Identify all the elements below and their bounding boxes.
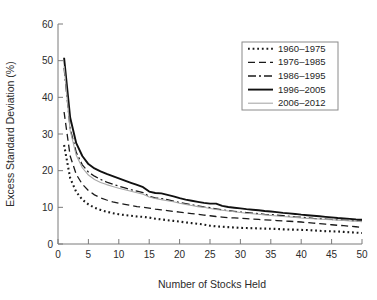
y-tick-label: 50 [42,55,54,66]
x-tick-label: 0 [55,249,61,260]
legend-label-3: 1986–1995 [278,70,326,81]
y-tick-label: 30 [42,129,54,140]
y-tick-label: 0 [47,239,53,250]
series-line-1 [64,145,362,233]
y-tick-label: 10 [42,202,54,213]
chart-legend: 1960–19751976–19851986–19951996–20052006… [242,42,338,110]
x-tick-label: 20 [174,249,186,260]
x-tick-label: 50 [356,249,368,260]
x-tick-label: 45 [326,249,338,260]
legend-label-4: 1996–2005 [278,84,326,95]
excess-standard-deviation-line-chart: 010203040506005101520253035404550 1960–1… [0,0,377,300]
x-tick-label: 35 [265,249,277,260]
legend-label-1: 1960–1975 [278,43,326,54]
x-tick-label: 25 [204,249,216,260]
legend-label-5: 2006–2012 [278,97,326,108]
x-tick-label: 40 [296,249,308,260]
x-tick-label: 10 [113,249,125,260]
y-tick-label: 20 [42,165,54,176]
x-tick-label: 30 [235,249,247,260]
y-axis-title: Excess Standard Deviation (%) [4,61,16,206]
series-line-2 [64,112,362,227]
figure-container: 010203040506005101520253035404550 1960–1… [0,0,377,300]
x-axis-title: Number of Stocks Held [158,278,266,290]
y-tick-label: 40 [42,92,54,103]
x-tick-label: 15 [144,249,156,260]
y-tick-label: 60 [42,19,54,30]
legend-label-2: 1976–1985 [278,56,326,67]
x-tick-label: 5 [86,249,92,260]
